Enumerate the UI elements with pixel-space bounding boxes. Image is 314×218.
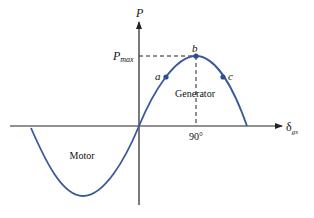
point-c-marker: [220, 74, 225, 79]
ninety-degree-tick-label: 90°: [189, 131, 203, 142]
point-b-marker: [193, 53, 198, 58]
power-angle-diagram: P Pmax a b c Generator Motor 90° δgs: [0, 0, 314, 218]
generator-region-label: Generator: [175, 88, 216, 99]
pmax-label: Pmax: [112, 49, 134, 64]
point-a-label: a: [155, 70, 161, 82]
point-b-label: b: [192, 42, 198, 54]
x-axis-label: δgs: [286, 120, 298, 136]
motor-region-label: Motor: [70, 150, 96, 161]
point-a-marker: [163, 74, 168, 79]
y-axis-label: P: [135, 6, 144, 20]
point-c-label: c: [228, 70, 233, 82]
